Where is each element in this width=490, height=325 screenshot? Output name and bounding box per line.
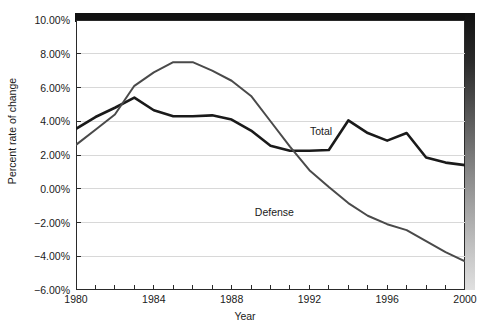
series-label-defense: Defense bbox=[255, 206, 294, 218]
x-axis-tick-labels: 198019841988199219962000 bbox=[0, 294, 490, 310]
x-tick-label: 1996 bbox=[376, 294, 399, 305]
x-tick-label: 2000 bbox=[453, 294, 476, 305]
plot-area bbox=[76, 20, 465, 290]
x-tick-label: 1992 bbox=[298, 294, 321, 305]
y-tick-label: 8.00% bbox=[8, 49, 70, 60]
x-tick-label: 1980 bbox=[64, 294, 87, 305]
frame-shadow-right bbox=[465, 13, 475, 290]
x-tick-label: 1984 bbox=[142, 294, 165, 305]
chart-figure: 10.00%8.00%6.00%4.00%2.00%0.00%−2.00%−4.… bbox=[0, 0, 490, 325]
series-label-total: Total bbox=[310, 125, 332, 137]
y-tick-label: −2.00% bbox=[8, 218, 70, 229]
series-line-defense bbox=[76, 62, 465, 261]
x-axis-title: Year bbox=[0, 310, 490, 322]
x-tick-label: 1988 bbox=[220, 294, 243, 305]
y-tick-label: −4.00% bbox=[8, 251, 70, 262]
y-axis-title: Percent rate of change bbox=[6, 66, 18, 196]
y-tick-label: 10.00% bbox=[8, 15, 70, 26]
